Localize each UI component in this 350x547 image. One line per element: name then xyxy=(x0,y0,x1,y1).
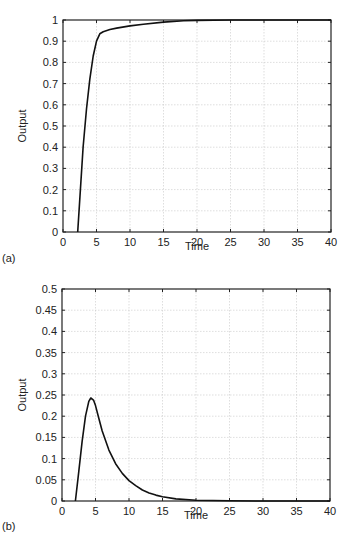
y-tick-label: 0.8 xyxy=(43,56,58,68)
y-tick-label: 0.3 xyxy=(43,162,58,174)
x-axis-label: Time xyxy=(184,509,208,521)
x-tick-label: 40 xyxy=(325,236,337,248)
y-tick-label: 0 xyxy=(52,226,58,238)
x-tick-label: 30 xyxy=(258,236,270,248)
y-axis-label: Output xyxy=(16,378,28,411)
panel-label: (b) xyxy=(2,520,15,532)
x-tick-label: 30 xyxy=(257,505,269,517)
y-tick-label: 0.3 xyxy=(42,368,57,380)
y-axis-label: Output xyxy=(16,109,28,142)
y-tick-label: 0.9 xyxy=(43,35,58,47)
chart-panel-b: 051015202530354000.050.10.150.20.250.30.… xyxy=(2,283,336,532)
x-tick-label: 0 xyxy=(59,505,65,517)
x-tick-label: 5 xyxy=(92,505,98,517)
y-tick-label: 0.4 xyxy=(43,141,58,153)
y-tick-label: 0.15 xyxy=(36,431,57,443)
y-tick-label: 0.1 xyxy=(43,205,58,217)
x-tick-label: 35 xyxy=(291,236,303,248)
y-tick-label: 0.5 xyxy=(42,283,57,295)
y-tick-label: 0.6 xyxy=(43,99,58,111)
x-axis-label: Time xyxy=(185,240,209,252)
x-tick-label: 35 xyxy=(290,505,302,517)
figure-canvas: 051015202530354000.10.20.30.40.50.60.70.… xyxy=(0,0,350,547)
y-tick-label: 0.4 xyxy=(42,325,57,337)
x-tick-label: 10 xyxy=(124,236,136,248)
y-tick-label: 0.2 xyxy=(42,410,57,422)
y-tick-label: 0.2 xyxy=(43,184,58,196)
x-tick-label: 15 xyxy=(156,505,168,517)
y-tick-label: 0 xyxy=(51,495,57,507)
output-curve xyxy=(75,398,330,501)
x-tick-label: 25 xyxy=(224,236,236,248)
x-tick-label: 5 xyxy=(93,236,99,248)
y-tick-label: 0.7 xyxy=(43,78,58,90)
y-tick-label: 0.45 xyxy=(36,304,57,316)
chart-panel-a: 051015202530354000.10.20.30.40.50.60.70.… xyxy=(2,14,337,264)
y-tick-label: 0.1 xyxy=(42,453,57,465)
y-tick-label: 1 xyxy=(52,14,58,26)
x-tick-label: 0 xyxy=(60,236,66,248)
x-tick-label: 40 xyxy=(324,505,336,517)
x-tick-label: 25 xyxy=(223,505,235,517)
y-tick-label: 0.25 xyxy=(36,389,57,401)
y-tick-label: 0.05 xyxy=(36,474,57,486)
y-tick-label: 0.35 xyxy=(36,347,57,359)
y-tick-label: 0.5 xyxy=(43,120,58,132)
x-tick-label: 10 xyxy=(123,505,135,517)
x-tick-label: 15 xyxy=(157,236,169,248)
panel-label: (a) xyxy=(2,252,15,264)
